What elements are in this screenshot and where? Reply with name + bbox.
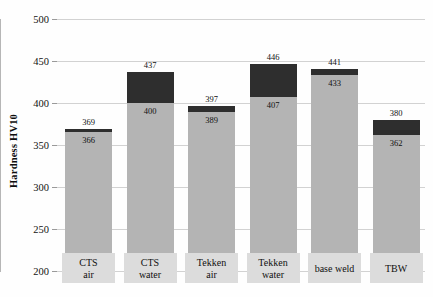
bar-inner-label: 407 (267, 100, 280, 110)
bar-group: 380362 (373, 120, 420, 271)
bar-total-label: 369 (82, 117, 95, 127)
bar-total-label: 441 (328, 57, 341, 67)
y-tick-label-250: 250 (15, 224, 49, 235)
gridline-350 (57, 145, 425, 146)
bar-segment-lower (127, 103, 174, 271)
y-tick-label-500: 500 (15, 14, 49, 25)
gridline-500 (57, 19, 425, 20)
y-tick-label-300: 300 (15, 182, 49, 193)
category-label-box: CTSair (62, 253, 115, 283)
category-label-box: TBW (370, 253, 423, 283)
hardness-bar-chart: Hardness HV10 500450400350300250200 3693… (0, 0, 433, 297)
y-tick-mark-250 (52, 229, 57, 230)
plot-area: 500450400350300250200 369366437400397389… (57, 19, 425, 271)
gridline-250 (57, 229, 425, 230)
category-label-line: base weld (309, 263, 360, 275)
bar-inner-label: 400 (144, 106, 157, 116)
bar-inner-label: 433 (328, 78, 341, 88)
category-label-line: air (186, 269, 237, 281)
gridline-450 (57, 61, 425, 62)
bar-total-label: 446 (267, 52, 280, 62)
bar-inner-label: 366 (82, 135, 95, 145)
y-tick-mark-400 (52, 103, 57, 104)
y-tick-label-400: 400 (15, 98, 49, 109)
y-axis-line (0, 19, 1, 272)
category-label-line: CTS (125, 257, 176, 269)
category-label-line: air (63, 269, 114, 281)
y-tick-label-200: 200 (15, 266, 49, 277)
y-tick-label-350: 350 (15, 140, 49, 151)
bar-total-label: 380 (390, 108, 403, 118)
bar-segment-lower (311, 75, 358, 271)
bar-segment-lower (65, 132, 112, 271)
category-label-box: Tekkenwater (247, 253, 300, 283)
y-tick-label-450: 450 (15, 56, 49, 67)
y-tick-mark-500 (52, 19, 57, 20)
bar-total-label: 397 (205, 94, 218, 104)
y-tick-mark-350 (52, 145, 57, 146)
bar-segment-lower (373, 135, 420, 271)
category-label-line: TBW (371, 263, 422, 275)
bar-group: 446407 (250, 64, 297, 271)
gridline-400 (57, 103, 425, 104)
gridline-300 (57, 187, 425, 188)
category-label-box: base weld (308, 253, 361, 283)
bar-group: 441433 (311, 69, 358, 271)
bar-group: 437400 (127, 72, 174, 271)
category-label-box: Tekkenair (185, 253, 238, 283)
bar-group: 369366 (65, 129, 112, 271)
bar-segment-lower (188, 112, 235, 271)
category-label-box: CTSwater (124, 253, 177, 283)
y-tick-mark-200 (52, 271, 57, 272)
bar-inner-label: 389 (205, 115, 218, 125)
category-label-line: Tekken (186, 257, 237, 269)
bar-segment-lower (250, 97, 297, 271)
bar-group: 397389 (188, 106, 235, 271)
y-tick-mark-450 (52, 61, 57, 62)
category-label-line: Tekken (248, 257, 299, 269)
bar-inner-label: 362 (390, 138, 403, 148)
category-label-line: water (125, 269, 176, 281)
y-tick-mark-300 (52, 187, 57, 188)
category-label-line: water (248, 269, 299, 281)
category-label-line: CTS (63, 257, 114, 269)
bar-total-label: 437 (144, 60, 157, 70)
